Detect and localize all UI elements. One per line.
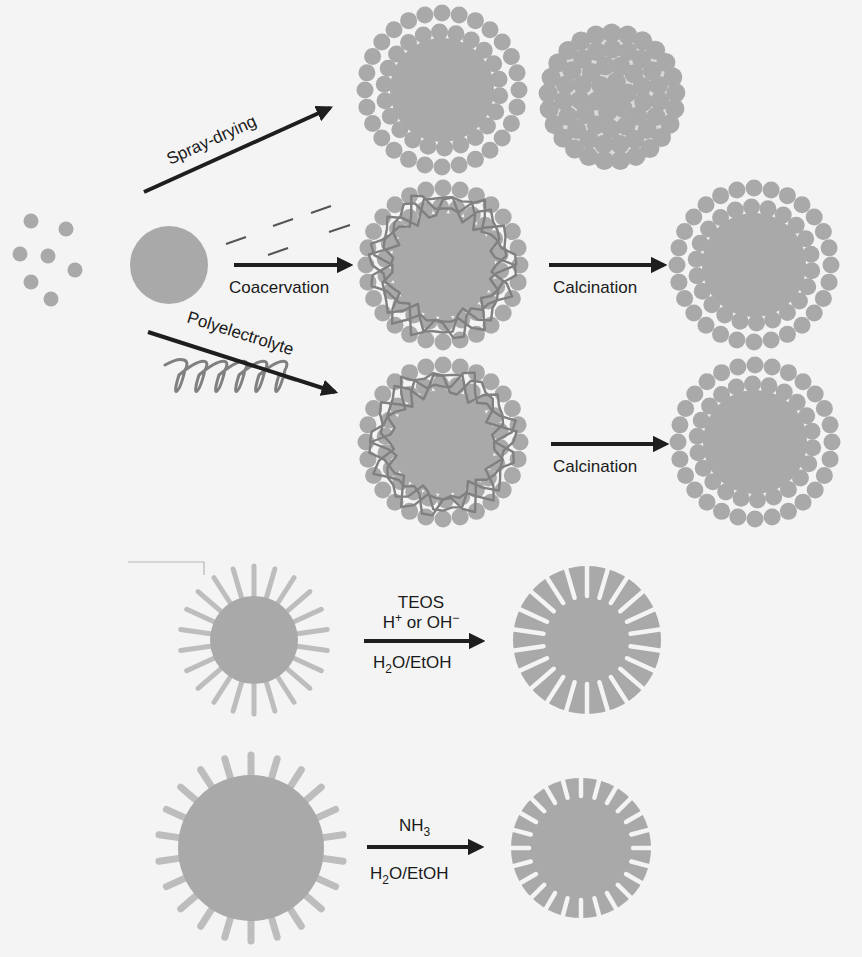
nanoparticle bbox=[435, 334, 452, 351]
nanoparticle bbox=[380, 60, 397, 77]
core-shell-spray bbox=[357, 5, 528, 176]
nanoparticle bbox=[447, 25, 464, 42]
nanoparticle bbox=[816, 400, 833, 417]
nanoparticle bbox=[435, 511, 452, 528]
nanoparticle bbox=[764, 509, 781, 526]
nanoparticle bbox=[376, 76, 393, 93]
template-sphere bbox=[130, 226, 208, 304]
surfactant-tail bbox=[278, 578, 294, 603]
surfactant-tail bbox=[214, 677, 230, 702]
nanoparticle bbox=[803, 262, 820, 279]
nanoparticle bbox=[364, 48, 381, 65]
nanoparticle bbox=[816, 467, 833, 484]
nanoparticle bbox=[712, 187, 729, 204]
small-nanoparticles bbox=[13, 214, 83, 307]
nanoparticle bbox=[510, 451, 527, 468]
nanoparticle bbox=[485, 55, 502, 72]
aggregated-cluster bbox=[539, 24, 686, 171]
nanoparticle bbox=[504, 400, 521, 417]
nanoparticle bbox=[713, 386, 730, 403]
surfactant-tail bbox=[198, 592, 221, 612]
label-solvent-2: H2O/EtOH bbox=[370, 864, 448, 887]
polymer-fragment bbox=[273, 219, 293, 226]
nanoparticle bbox=[732, 313, 749, 330]
label-teos: TEOS bbox=[398, 593, 444, 612]
nanoparticle bbox=[689, 428, 706, 445]
nanoparticle bbox=[434, 159, 451, 176]
nanoparticle bbox=[748, 314, 765, 331]
nanoparticle bbox=[24, 214, 39, 229]
nanoparticle bbox=[797, 230, 814, 247]
nanoparticle bbox=[491, 87, 508, 104]
surfactant-tail bbox=[298, 646, 328, 650]
nanoparticle bbox=[688, 251, 705, 268]
nanoparticle bbox=[482, 21, 499, 38]
mesoporous-silica-sphere-1 bbox=[513, 565, 661, 715]
nanoparticle bbox=[663, 67, 682, 86]
nanoparticle bbox=[373, 130, 390, 147]
surfactant-tail bbox=[159, 858, 179, 861]
surfactant-tail bbox=[317, 809, 335, 817]
surfactant-tail bbox=[290, 909, 301, 926]
nanoparticle bbox=[504, 467, 521, 484]
nanoparticle bbox=[800, 455, 817, 472]
nanoparticle bbox=[358, 99, 375, 116]
surfactant-tail bbox=[201, 909, 212, 926]
nanoparticle bbox=[763, 181, 780, 198]
nanoparticle bbox=[509, 99, 526, 116]
particles-layer bbox=[13, 5, 841, 942]
surfactant-tail bbox=[278, 677, 294, 702]
nanoparticle bbox=[494, 33, 511, 50]
nanoparticle bbox=[434, 5, 451, 22]
surfactant-tail bbox=[166, 809, 184, 817]
nanoparticle bbox=[807, 482, 824, 499]
surfactant-tail bbox=[166, 878, 184, 886]
surfactant-tail bbox=[187, 658, 214, 670]
nanoparticle bbox=[467, 129, 484, 146]
surfactant-tail bbox=[287, 592, 310, 612]
nanoparticle bbox=[763, 332, 780, 349]
nanoparticle bbox=[503, 115, 520, 132]
nanoparticle bbox=[824, 434, 841, 451]
surfactant-tail bbox=[181, 896, 196, 909]
nanoparticle bbox=[670, 274, 687, 291]
nanoparticle bbox=[495, 208, 512, 225]
nanoparticle bbox=[822, 451, 839, 468]
nanoparticle bbox=[417, 509, 434, 526]
label-polyelectrolyte: Polyelectrolyte bbox=[185, 308, 296, 359]
nanoparticle bbox=[435, 180, 452, 197]
nanoparticle bbox=[686, 385, 703, 402]
nanoparticle bbox=[743, 199, 760, 216]
nanoparticle bbox=[764, 358, 781, 375]
nanoparticle bbox=[794, 196, 811, 213]
polyelectrolyte-coil bbox=[165, 360, 295, 392]
surfactant-tail bbox=[214, 578, 230, 603]
nanoparticle bbox=[822, 416, 839, 433]
synthesis-diagram: Spray-drying Coacervation Polyelectrolyt… bbox=[0, 0, 862, 957]
nanoparticle bbox=[798, 407, 815, 424]
nanoparticle bbox=[694, 283, 711, 300]
nanoparticle bbox=[688, 267, 705, 284]
nanoparticle bbox=[400, 151, 417, 168]
nanoparticle bbox=[697, 317, 714, 334]
nanoparticle bbox=[385, 21, 402, 38]
nanoparticle bbox=[806, 208, 823, 225]
surfactant-tail bbox=[181, 787, 196, 800]
nanoparticle bbox=[359, 451, 376, 468]
polymer-fragment bbox=[329, 225, 350, 232]
surfactant-tail bbox=[294, 658, 321, 670]
nanoparticle bbox=[509, 64, 526, 81]
nanoparticle bbox=[746, 180, 763, 197]
surfactant-tail bbox=[306, 787, 321, 800]
nanoparticle bbox=[728, 181, 745, 198]
surfactant-tail bbox=[181, 646, 211, 650]
nanoparticle bbox=[364, 115, 381, 132]
nanoparticle bbox=[804, 423, 821, 440]
core bbox=[178, 775, 324, 921]
nanoparticle bbox=[795, 373, 812, 390]
surfactant-coated-large-sphere bbox=[159, 755, 343, 941]
nanoparticle bbox=[698, 373, 715, 390]
nanoparticle bbox=[764, 311, 781, 328]
polymer-fragment bbox=[226, 237, 246, 244]
polymer-fragment bbox=[268, 248, 288, 255]
